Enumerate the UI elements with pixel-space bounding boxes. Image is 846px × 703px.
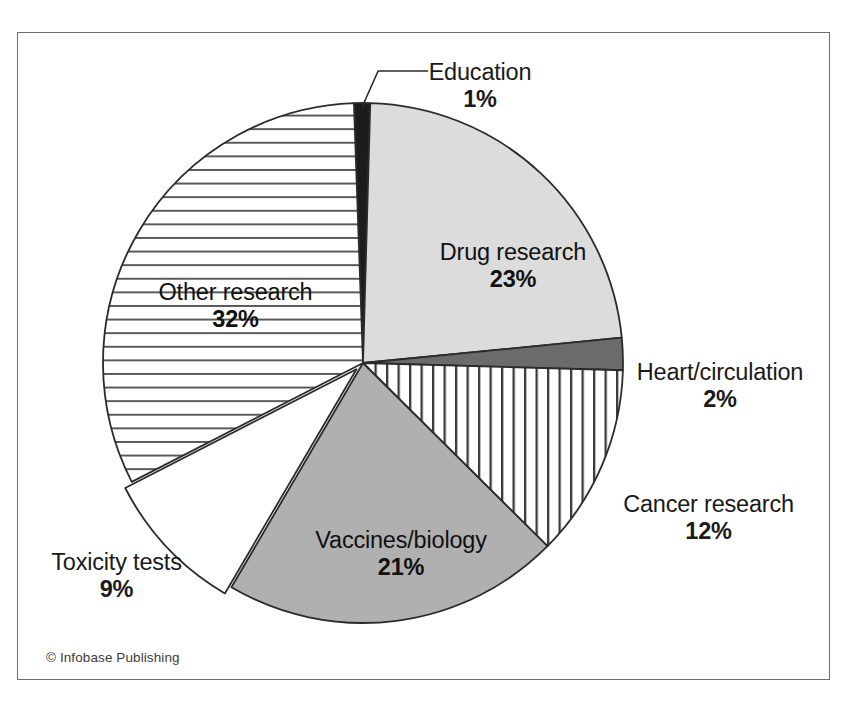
slice-label-cancer-research: Cancer research 12% — [596, 491, 821, 546]
slice-label-toxicity-tests-text: Toxicity tests — [51, 549, 181, 575]
slice-label-vaccines-biology-text: Vaccines/biology — [315, 527, 486, 553]
slice-label-cancer-research-percent: 12% — [596, 518, 821, 545]
slice-label-drug-research: Drug research 23% — [418, 239, 608, 294]
slice-label-drug-research-percent: 23% — [418, 266, 608, 293]
slice-label-heart-circulation: Heart/circulation 2% — [610, 359, 830, 414]
chart-figure-frame: Education 1% Drug research 23% Heart/cir… — [17, 32, 830, 680]
slice-label-education-percent: 1% — [385, 86, 575, 113]
slice-label-drug-research-text: Drug research — [440, 239, 586, 265]
pie-slice-drug-research[interactable] — [363, 103, 622, 363]
slice-label-other-research-text: Other research — [159, 279, 313, 305]
slice-label-vaccines-biology: Vaccines/biology 21% — [286, 527, 516, 582]
slice-label-vaccines-biology-percent: 21% — [286, 554, 516, 581]
slice-label-heart-circulation-text: Heart/circulation — [637, 359, 803, 385]
slice-label-education-text: Education — [429, 59, 532, 85]
copyright-credit: © Infobase Publishing — [46, 650, 180, 665]
slice-label-toxicity-tests-percent: 9% — [24, 576, 209, 603]
slice-label-education: Education 1% — [385, 59, 575, 114]
slice-label-heart-circulation-percent: 2% — [610, 386, 830, 413]
slice-label-cancer-research-text: Cancer research — [623, 491, 794, 517]
slice-label-other-research: Other research 32% — [128, 279, 343, 334]
slice-label-other-research-percent: 32% — [128, 306, 343, 333]
slice-label-toxicity-tests: Toxicity tests 9% — [24, 549, 209, 604]
